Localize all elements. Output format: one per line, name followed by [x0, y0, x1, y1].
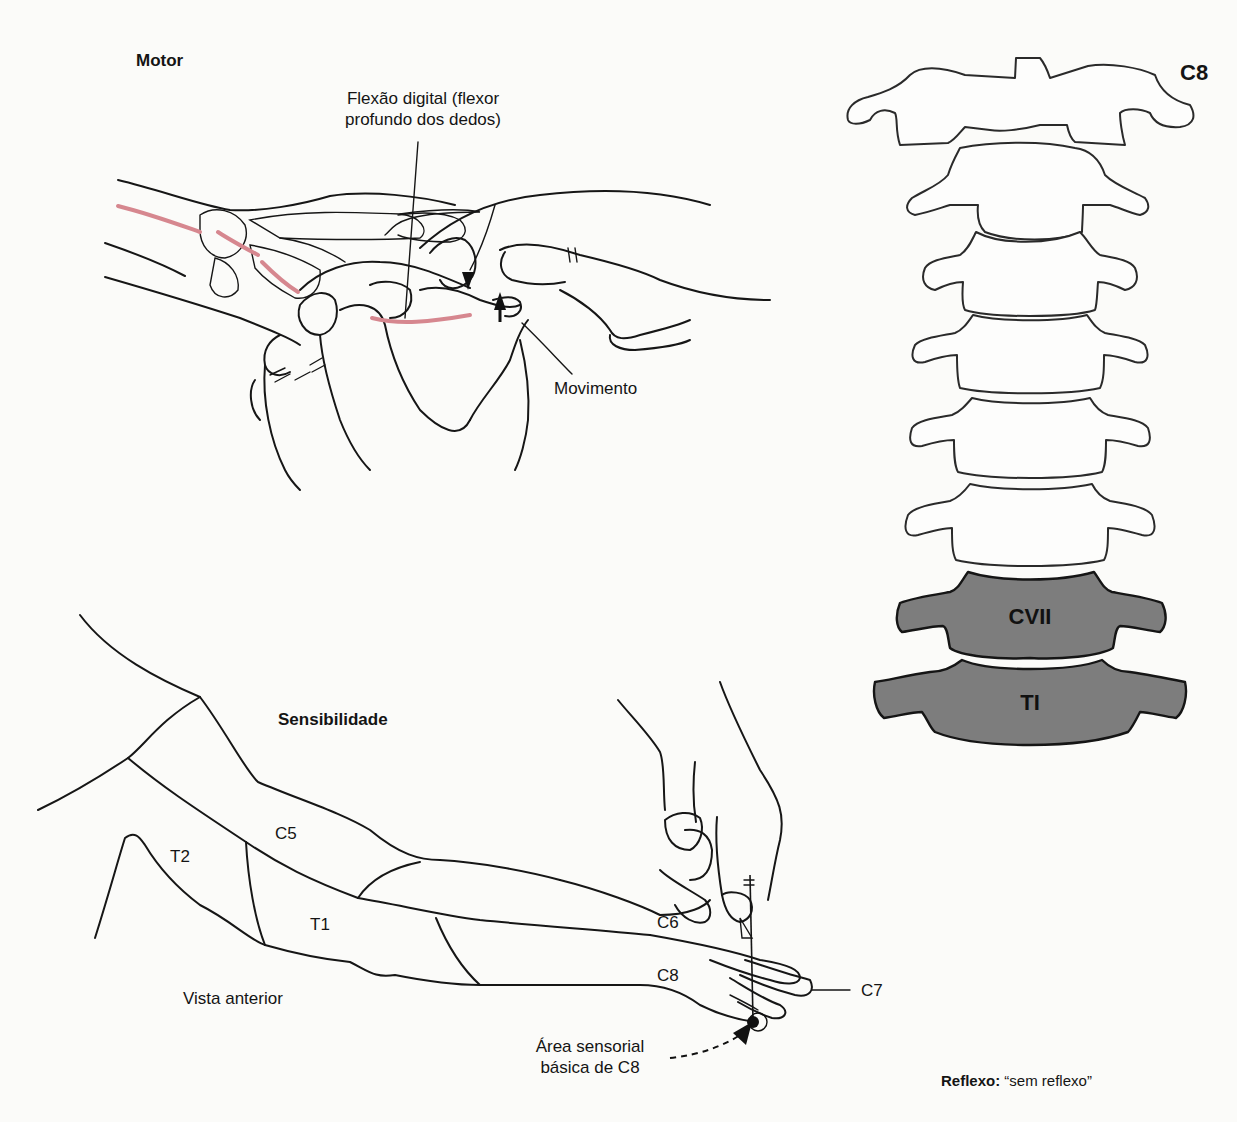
- dermatome-c7-label: C7: [861, 980, 883, 1001]
- dermatome-t1-label: T1: [310, 914, 330, 935]
- sensory-heading: Sensibilidade: [278, 709, 388, 730]
- reflex-note: Reflexo: “sem reflexo”: [941, 1070, 1092, 1091]
- pointer-arrow-icon: [733, 1022, 752, 1045]
- sensory-arm-illustration: [0, 0, 1237, 1122]
- c8-exam-diagram: Motor Flexão digital (flexor profundo do…: [0, 0, 1237, 1122]
- reflex-value: “sem reflexo”: [1004, 1072, 1092, 1089]
- view-label: Vista anterior: [183, 988, 283, 1009]
- key-area-label-line1: Área sensorial: [515, 1036, 665, 1057]
- key-area-label: Área sensorial básica de C8: [515, 1036, 665, 1078]
- key-area-label-line2: básica de C8: [515, 1057, 665, 1078]
- reflex-label: Reflexo:: [941, 1072, 1000, 1089]
- dermatome-c6-label: C6: [657, 912, 679, 933]
- dermatome-t2-label: T2: [170, 846, 190, 867]
- dermatome-c8-label: C8: [657, 965, 679, 986]
- sensory-pin: [750, 875, 753, 1020]
- dermatome-c5-label: C5: [275, 823, 297, 844]
